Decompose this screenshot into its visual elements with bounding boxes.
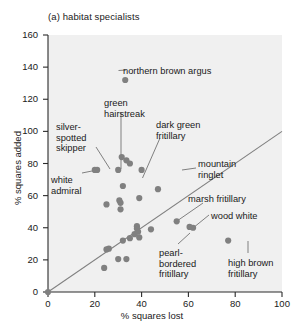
data-point xyxy=(123,157,129,163)
label-marsh-fritillary: marsh fritillary xyxy=(188,194,246,205)
data-point-high-brown-fritillary xyxy=(225,238,231,244)
label-silver-spotted-skipper: silver- spotted skipper xyxy=(56,122,87,154)
x-axis-tick-label: 100 xyxy=(269,298,295,309)
label-wood-white: wood white xyxy=(211,211,258,222)
data-point xyxy=(45,289,51,295)
data-point xyxy=(155,186,161,192)
data-point-mountain-ringlet xyxy=(139,167,145,173)
label-northern-brown-argus: northern brown argus xyxy=(123,66,211,77)
data-point-white-admiral xyxy=(94,167,100,173)
data-point xyxy=(103,246,109,252)
y-axis-tick-label: 100 xyxy=(14,125,38,136)
figure-habitat-specialists: (a) habitat specialists % squares lost %… xyxy=(0,0,304,326)
data-point xyxy=(117,200,123,206)
x-axis-ticks xyxy=(48,292,282,297)
data-point xyxy=(120,183,126,189)
data-point xyxy=(136,234,142,240)
y-axis-tick-label: 40 xyxy=(14,222,38,233)
x-axis-tick-label: 60 xyxy=(175,298,201,309)
y-axis-tick-label: 120 xyxy=(14,93,38,104)
data-point xyxy=(120,238,126,244)
data-point xyxy=(136,195,142,201)
data-point xyxy=(115,256,121,262)
data-point xyxy=(117,206,123,212)
y-axis-tick-label: 60 xyxy=(14,190,38,201)
label-pearl-bordered-fritillary: pearl- bordered fritillary xyxy=(159,248,196,280)
data-point xyxy=(127,235,133,241)
data-point-northern-brown-argus xyxy=(122,77,128,83)
x-axis-title: % squares lost xyxy=(0,310,304,321)
x-axis-tick-label: 80 xyxy=(222,298,248,309)
page-title: (a) habitat specialists xyxy=(48,11,140,22)
data-point-wood-white xyxy=(190,225,196,231)
x-axis-tick-label: 0 xyxy=(35,298,61,309)
y-axis-tick-label: 160 xyxy=(14,29,38,40)
data-point-marsh-fritillary xyxy=(174,218,180,224)
data-point xyxy=(101,265,107,271)
y-axis-ticks xyxy=(43,35,48,292)
label-dark-green-fritillary: dark green fritillary xyxy=(156,120,200,141)
label-green-hairstreak: green hairstreak xyxy=(104,98,145,119)
data-point xyxy=(103,201,109,207)
label-white-admiral: white admiral xyxy=(51,175,81,196)
data-point xyxy=(148,226,154,232)
y-axis-tick-label: 80 xyxy=(14,158,38,169)
x-axis-tick-label: 20 xyxy=(82,298,108,309)
data-point xyxy=(123,256,129,262)
data-point xyxy=(115,167,121,173)
label-mountain-ringlet: mountain ringlet xyxy=(198,159,236,180)
y-axis-tick-label: 20 xyxy=(14,254,38,265)
label-high-brown-fritillary: high brown fritillary xyxy=(228,258,273,279)
y-axis-tick-label: 0 xyxy=(14,286,38,297)
x-axis-tick-label: 40 xyxy=(129,298,155,309)
y-axis-tick-label: 140 xyxy=(14,61,38,72)
